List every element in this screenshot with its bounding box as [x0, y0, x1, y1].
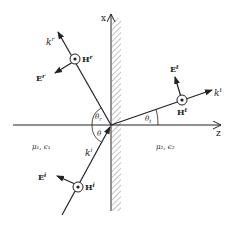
incident-angle-label: θ	[97, 130, 102, 138]
reflected-E-label: Er	[36, 72, 46, 83]
x-axis-label: x	[101, 13, 106, 23]
transmitted-H-label: Ht	[177, 106, 188, 117]
transmitted-angle-arc	[156, 109, 158, 125]
incident-E-vector	[57, 176, 75, 184]
incident-ray	[62, 127, 110, 215]
incident-k-label: ki	[85, 146, 92, 158]
interface-hatch	[112, 18, 121, 211]
transmitted-ray	[111, 90, 212, 125]
reflected-angle-label: θr	[95, 113, 102, 122]
reflected-H-label: Hr	[82, 53, 94, 64]
z-axis-label: z	[216, 128, 221, 138]
reflected-H-out-of-page-icon	[70, 54, 80, 64]
reflected-k-label: kr	[46, 35, 55, 47]
transmitted-angle-label: θt	[145, 115, 152, 124]
transmitted-E-vector	[175, 77, 181, 97]
medium1-label: μ₁, ϵ₁	[32, 143, 51, 151]
diagram-canvas: x z μ₁, ϵ₁ μ₂, ϵ₂ kr Er Hr kt Et Ht ki E…	[0, 0, 240, 229]
transmitted-E-label: Et	[170, 63, 179, 74]
transmitted-H-out-of-page-icon	[177, 95, 187, 105]
reflected-E-vector	[55, 62, 73, 73]
incident-H-out-of-page-icon	[73, 182, 83, 192]
incident-H-label: Hi	[85, 181, 96, 192]
incident-E-label: Ei	[38, 171, 47, 182]
transmitted-k-label: kt	[214, 86, 222, 98]
medium2-label: μ₂, ϵ₂	[156, 143, 175, 151]
reflected-ray	[58, 32, 111, 125]
